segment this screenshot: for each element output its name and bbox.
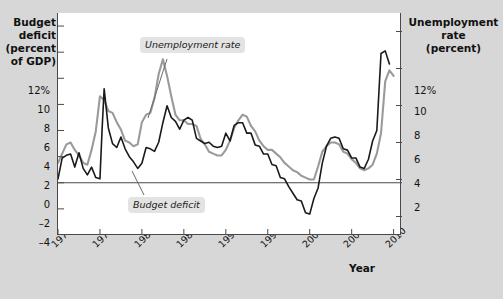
right-axis-title-line-1: Unemployment — [404, 16, 503, 29]
right-tick-label-4: 4 — [414, 179, 420, 189]
left-axis-title-line-4: of GDP) — [0, 55, 56, 68]
right-axis-title-line-3: (percent) — [404, 42, 503, 55]
x-axis-ticks — [58, 229, 394, 235]
left-tick-label-10: 10 — [12, 105, 50, 115]
right-tick-label-12: 12% — [414, 86, 436, 96]
right-tick-label-6: 6 — [414, 155, 420, 165]
left-axis-title: Budget deficit (percent of GDP) — [0, 16, 56, 68]
y-axis-left-ticks — [58, 26, 64, 235]
left-axis-title-line-1: Budget — [0, 16, 56, 29]
right-tick-label-10: 10 — [414, 107, 427, 117]
right-axis-title: Unemployment rate (percent) — [404, 16, 503, 55]
chart-figure: Budget deficit (percent of GDP) Unemploy… — [0, 0, 503, 299]
left-axis-title-line-3: (percent — [0, 42, 56, 55]
left-tick-label-0: 0 — [12, 200, 50, 210]
right-axis-title-line-2: rate — [404, 29, 503, 42]
series-line-budget-deficit — [58, 51, 389, 214]
x-axis-title: Year — [349, 262, 375, 274]
plot-area: Unemployment rate Budget deficit — [57, 13, 401, 235]
left-tick-label-6: 6 — [12, 143, 50, 153]
right-tick-label-2: 2 — [414, 203, 420, 213]
left-axis-title-line-2: deficit — [0, 29, 56, 42]
unemployment-rate-callout-label: Unemployment rate — [140, 37, 245, 53]
unemployment-label-leader-line — [148, 59, 167, 118]
series-line-unemployment-rate — [58, 59, 394, 179]
left-tick-label-2: 2 — [12, 181, 50, 191]
budget-deficit-callout-label: Budget deficit — [128, 197, 205, 213]
left-tick-label-8: 8 — [12, 124, 50, 134]
left-tick-label-neg4: –4 — [12, 238, 50, 248]
left-tick-label-4: 4 — [12, 162, 50, 172]
left-tick-label-12: 12% — [12, 86, 50, 96]
y-axis-right-ticks — [396, 32, 402, 217]
left-tick-label-neg2: –2 — [12, 219, 50, 229]
right-tick-label-8: 8 — [414, 131, 420, 141]
